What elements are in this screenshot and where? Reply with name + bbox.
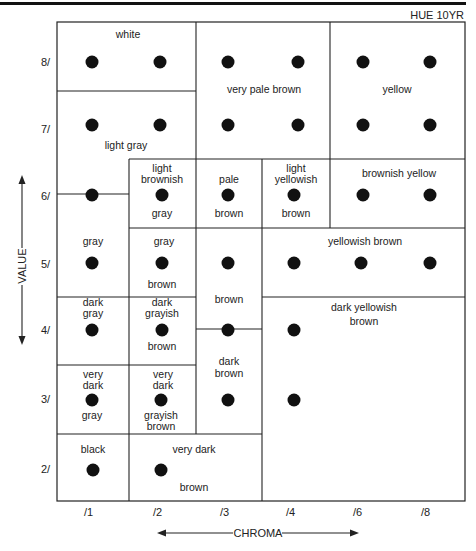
- chip-5-8: [424, 257, 437, 270]
- chip-8-2: [154, 56, 167, 69]
- y-tick-5: 5/: [41, 258, 51, 270]
- region-labels: white light gray very pale brown yellow …: [81, 28, 437, 493]
- arrow-up-icon: [19, 175, 26, 184]
- chip-6-6: [357, 189, 370, 202]
- chip-8-1: [86, 56, 99, 69]
- chip-5-6: [355, 257, 368, 270]
- arrow-left-icon: [157, 530, 166, 537]
- label-light-yellowish-brown-2: yellowish: [275, 173, 318, 185]
- label-black: black: [81, 443, 106, 455]
- label-dark-brown-1: dark: [219, 355, 240, 367]
- label-grayish-brown-1: gray: [154, 235, 175, 247]
- chip-8-8: [424, 56, 437, 69]
- chip-7-2: [154, 119, 167, 132]
- chip-3-1: [86, 394, 99, 407]
- chip-6-4: [288, 189, 301, 202]
- label-dark-yellowish-brown-2: brown: [350, 315, 379, 327]
- y-tick-3: 3/: [41, 393, 51, 405]
- label-very-dark-grayish-brown-4: brown: [147, 420, 176, 432]
- label-very-pale-brown: very pale brown: [227, 83, 301, 95]
- label-brown: brown: [215, 293, 244, 305]
- y-tick-7: 7/: [41, 123, 51, 135]
- color-chips: [86, 56, 437, 477]
- chip-5-3: [222, 257, 235, 270]
- label-very-dark-gray-3: gray: [82, 409, 103, 421]
- chip-8-4: [292, 56, 305, 69]
- label-yellowish-brown: yellowish brown: [328, 235, 402, 247]
- chip-4-3: [222, 324, 235, 337]
- chip-8-6: [357, 56, 370, 69]
- label-dark-grayish-brown-3: brown: [148, 340, 177, 352]
- y-tick-2: 2/: [41, 463, 51, 475]
- y-tick-8: 8/: [41, 56, 51, 68]
- label-dark-brown-2: brown: [215, 367, 244, 379]
- chip-5-4: [288, 257, 301, 270]
- label-very-dark-brown-1: very dark: [172, 443, 216, 455]
- chip-3-4: [288, 394, 301, 407]
- chip-5-1: [86, 257, 99, 270]
- x-tick-6: /6: [353, 506, 362, 518]
- chip-4-1: [86, 324, 99, 337]
- chip-4-2: [156, 324, 169, 337]
- arrow-right-icon: [350, 530, 359, 537]
- x-tick-1: /1: [84, 506, 93, 518]
- label-very-dark-grayish-brown-2: dark: [153, 379, 174, 391]
- chip-6-2: [156, 189, 169, 202]
- chip-7-4: [292, 119, 305, 132]
- chip-7-6: [357, 119, 370, 132]
- munsell-chart: white light gray very pale brown yellow …: [0, 0, 476, 551]
- y-tick-4: 4/: [41, 324, 51, 336]
- chip-3-3: [222, 394, 235, 407]
- chip-6-8: [424, 189, 437, 202]
- label-brownish-yellow: brownish yellow: [362, 167, 437, 179]
- label-dark-gray-2: gray: [83, 307, 104, 319]
- y-axis-label: VALUE: [16, 248, 28, 283]
- chip-2-2: [155, 464, 168, 477]
- label-grayish-brown-2: brown: [148, 278, 177, 290]
- chip-5-2: [156, 257, 169, 270]
- label-pale-brown-1: pale: [219, 173, 239, 185]
- chip-7-3: [222, 119, 235, 132]
- label-white: white: [115, 28, 141, 40]
- chip-7-8: [424, 119, 437, 132]
- y-tick-6: 6/: [41, 190, 51, 202]
- label-light-brownish-gray-3: gray: [152, 207, 173, 219]
- label-light-brownish-gray-2: brownish: [141, 173, 183, 185]
- label-very-dark-brown-2: brown: [180, 481, 209, 493]
- value-axis: VALUE: [16, 175, 28, 345]
- chip-6-3: [222, 189, 235, 202]
- label-light-yellowish-brown-3: brown: [282, 207, 311, 219]
- y-axis-ticks: 8/ 7/ 6/ 5/ 4/ 3/ 2/: [41, 56, 51, 475]
- x-tick-4: /4: [286, 506, 295, 518]
- chip-3-2: [155, 394, 168, 407]
- chip-4-4: [288, 324, 301, 337]
- chroma-axis: CHROMA: [157, 527, 359, 539]
- arrow-down-icon: [19, 336, 26, 345]
- label-dark-yellowish-brown-1: dark yellowish: [331, 301, 397, 313]
- chip-7-1: [86, 119, 99, 132]
- label-pale-brown-2: brown: [215, 207, 244, 219]
- chip-6-1: [86, 189, 99, 202]
- label-yellow: yellow: [382, 83, 412, 95]
- x-axis-ticks: /1 /2 /3 /4 /6 /8: [84, 506, 430, 518]
- chip-8-3: [222, 56, 235, 69]
- x-tick-3: /3: [220, 506, 229, 518]
- label-very-dark-gray-2: dark: [83, 379, 104, 391]
- label-dark-grayish-brown-2: grayish: [145, 307, 179, 319]
- x-tick-8: /8: [421, 506, 430, 518]
- x-axis-label: CHROMA: [234, 527, 284, 539]
- label-light-gray: light gray: [105, 139, 148, 151]
- chip-2-1: [87, 464, 100, 477]
- label-gray: gray: [83, 235, 104, 247]
- x-tick-2: /2: [153, 506, 162, 518]
